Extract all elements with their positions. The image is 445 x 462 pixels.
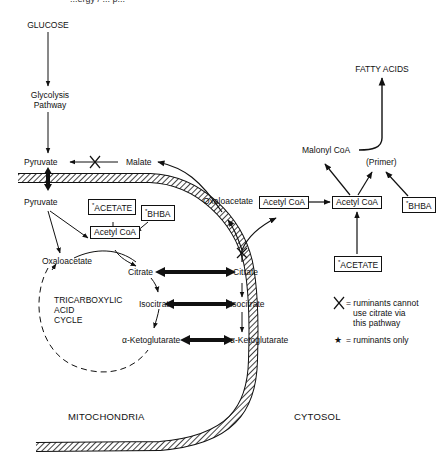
legend-star-icon: ★: [334, 335, 342, 345]
node-fatty-acids: FATTY ACIDS: [355, 64, 409, 74]
node-acetate-cyto: *ACETATE: [334, 256, 382, 272]
node-malonyl-coa: Malonyl CoA: [302, 145, 350, 155]
node-citrate-mito: Citrate: [128, 267, 153, 277]
node-acetate-mito: *ACETATE: [88, 199, 136, 215]
label-mitochondria: MITOCHONDRIA: [68, 412, 145, 422]
legend-x-icon: [334, 297, 344, 309]
isocitrate-transport-arrow: [164, 299, 236, 309]
akg-transport-arrow: [180, 335, 234, 345]
arrow-pyruvate-acetylcoa: [50, 211, 88, 238]
arrow-acetylcoa-malonyl: [325, 164, 350, 195]
node-glycolysis-pathway: Glycolysis Pathway: [31, 90, 69, 110]
node-bhba-mito: *BHBA: [141, 205, 175, 221]
node-akg-cyto: α-Ketoglutarate: [230, 335, 288, 345]
node-oxaloacetate-mito: Oxaloacetate: [42, 256, 92, 266]
arrow-isocitrate-akg: [154, 309, 159, 328]
node-akg-mito: α-Ketoglutarate: [122, 335, 180, 345]
node-primer: (Primer): [366, 157, 397, 167]
node-acetylcoa-cyto-2: Acetyl CoA: [332, 196, 382, 209]
label-cytosol: CYTOSOL: [294, 412, 341, 422]
legend-star-text: = ruminants only: [346, 335, 409, 345]
node-bhba-cyto: *BHBA: [402, 197, 436, 213]
node-oxaloacetate-cyto: Oxaloacetate: [203, 196, 253, 206]
node-acetylcoa-cyto-1: Acetyl CoA: [259, 196, 309, 209]
arrow-to-fatty-acids: [359, 78, 382, 150]
node-tca-cycle: TRICARBOXYLIC ACID CYCLE: [54, 295, 123, 325]
metabolic-pathway-diagram: ...ergy / ... p...: [0, 0, 445, 462]
arrow-citrate-isocitrate: [151, 278, 158, 292]
arrow-acetylcoa-primer: [358, 172, 372, 195]
node-isocitrate-cyto: Isocitrate: [230, 299, 265, 309]
node-citrate-cyto: Citrate: [233, 267, 258, 277]
arrow-bhba-primer: [386, 172, 408, 196]
node-glucose: GLUCOSE: [27, 20, 69, 30]
node-acetylcoa-mito: Acetyl CoA: [90, 226, 140, 239]
node-malate: Malate: [126, 157, 152, 167]
node-pyruvate-mitochondria: Pyruvate: [24, 197, 58, 207]
node-isocitrate-mito: Isocitrate: [139, 299, 174, 309]
legend-x-text: = ruminants cannot use citrate via this …: [346, 298, 419, 328]
node-pyruvate-cytosol: Pyruvate: [24, 157, 58, 167]
citrate-transport-arrow: [155, 267, 236, 277]
